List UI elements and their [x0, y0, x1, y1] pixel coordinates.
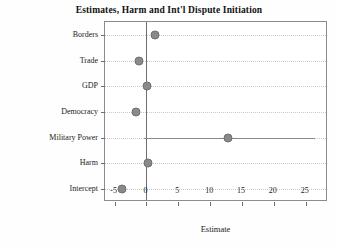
y-axis-tick — [101, 138, 105, 139]
x-axis-tick — [306, 202, 307, 206]
x-axis-tick — [210, 202, 211, 206]
y-axis-tick — [101, 112, 105, 113]
plot-panel — [104, 21, 327, 201]
x-axis-tick-label: 15 — [237, 186, 245, 195]
x-axis-tick-label: 20 — [269, 186, 277, 195]
data-point — [143, 159, 152, 168]
x-axis-tick — [146, 202, 147, 206]
data-point — [118, 185, 127, 194]
y-axis-tick — [101, 189, 105, 190]
x-axis-tick-label: 5 — [175, 186, 179, 195]
gridline-row — [105, 35, 326, 36]
chart-title: Estimates, Harm and Int'l Dispute Initia… — [0, 5, 338, 15]
x-axis-tick — [274, 202, 275, 206]
x-axis-tick-label: 10 — [205, 186, 213, 195]
y-axis-label: GDP — [0, 81, 98, 90]
gridline-row — [105, 163, 326, 164]
y-axis-tick — [101, 35, 105, 36]
data-point — [223, 133, 232, 142]
data-point — [134, 56, 143, 65]
y-axis-tick — [101, 61, 105, 62]
y-axis-label: Democracy — [0, 107, 98, 116]
x-axis-tick — [178, 202, 179, 206]
x-axis-title: Estimate — [104, 224, 327, 234]
data-point — [131, 108, 140, 117]
y-axis-label: Military Power — [0, 132, 98, 141]
x-axis-tick-label: 0 — [143, 186, 147, 195]
y-axis-label: Intercept — [0, 184, 98, 193]
x-axis-tick — [115, 202, 116, 206]
y-axis-tick — [101, 86, 105, 87]
y-axis-tick — [101, 163, 105, 164]
x-axis-tick-label: -5 — [110, 186, 117, 195]
data-point — [151, 30, 160, 39]
zero-line — [146, 22, 147, 200]
y-axis-label: Harm — [0, 158, 98, 167]
y-axis-label: Borders — [0, 29, 98, 38]
chart-figure: Estimates, Harm and Int'l Dispute Initia… — [0, 0, 338, 248]
x-axis-tick — [242, 202, 243, 206]
data-point — [143, 82, 152, 91]
y-axis-label: Trade — [0, 55, 98, 64]
gridline-row — [105, 189, 326, 190]
gridline-row — [105, 86, 326, 87]
x-axis-tick-label: 25 — [301, 186, 309, 195]
